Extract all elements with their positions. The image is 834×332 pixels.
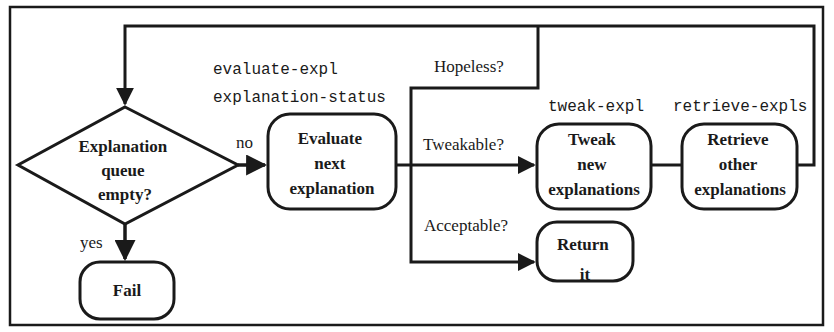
tweak-line-1: Tweak bbox=[568, 130, 616, 149]
fail-label: Fail bbox=[113, 281, 142, 300]
tweak-node: Tweak new explanations bbox=[537, 124, 651, 209]
return-node: Return it bbox=[537, 222, 633, 284]
function-label-tweak-expl: tweak-expl bbox=[548, 98, 644, 116]
decision-node: Explanation queue empty? bbox=[18, 107, 238, 224]
fail-node: Fail bbox=[80, 262, 174, 319]
evaluate-line-1: Evaluate bbox=[298, 129, 363, 148]
function-label-evaluate-expl: evaluate-expl bbox=[213, 61, 338, 79]
edge-label-no: no bbox=[236, 133, 253, 152]
retrieve-line-1: Retrieve bbox=[707, 130, 769, 149]
tweak-line-2: new bbox=[577, 155, 607, 174]
edge-label-hopeless: Hopeless? bbox=[434, 57, 504, 76]
edge-acceptable bbox=[411, 165, 534, 262]
evaluate-line-2: next bbox=[314, 154, 346, 173]
edge-label-tweakable: Tweakable? bbox=[423, 135, 504, 154]
edge-label-acceptable: Acceptable? bbox=[424, 216, 508, 235]
tweak-line-3: explanations bbox=[548, 180, 640, 199]
evaluate-node: Evaluate next explanation bbox=[268, 114, 396, 209]
retrieve-line-2: other bbox=[719, 155, 758, 174]
return-line-2: it bbox=[580, 265, 591, 284]
return-line-1: Return bbox=[557, 235, 609, 254]
decision-line-2: queue bbox=[101, 161, 145, 180]
flowchart-diagram: Explanation queue empty? Evaluate next e… bbox=[0, 0, 834, 332]
decision-line-3: empty? bbox=[98, 185, 152, 204]
evaluate-line-3: explanation bbox=[289, 179, 375, 198]
function-label-retrieve-expls: retrieve-expls bbox=[673, 98, 807, 116]
retrieve-node: Retrieve other explanations bbox=[682, 124, 797, 209]
function-label-explanation-status: explanation-status bbox=[213, 89, 386, 107]
edge-label-yes: yes bbox=[80, 233, 103, 252]
decision-line-1: Explanation bbox=[78, 137, 167, 156]
retrieve-line-3: explanations bbox=[694, 180, 786, 199]
